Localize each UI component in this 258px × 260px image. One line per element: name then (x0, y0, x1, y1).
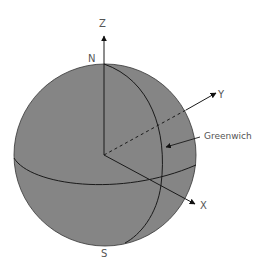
x-axis-label: X (200, 200, 207, 211)
north-label: N (88, 53, 95, 64)
south-label: S (101, 248, 107, 259)
greenwich-label: Greenwich (204, 131, 252, 141)
earth-sphere-diagram: Z N Y Greenwich X S (0, 0, 258, 260)
y-axis-label: Y (217, 89, 225, 100)
y-axis (186, 93, 216, 110)
z-axis-label: Z (99, 18, 106, 29)
